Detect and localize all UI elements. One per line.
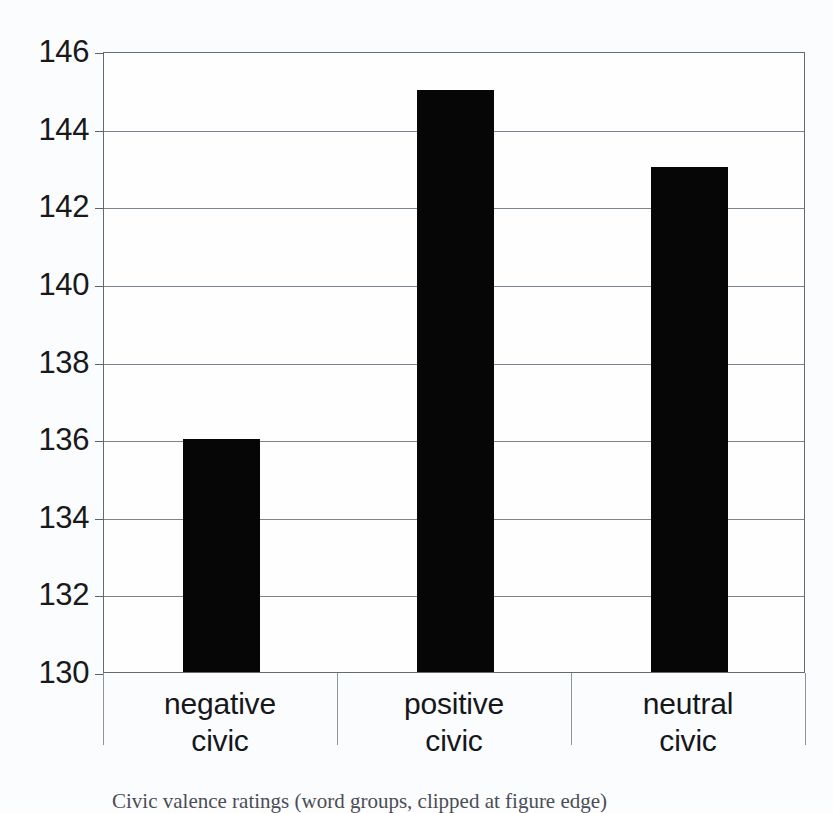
category-separator <box>103 673 104 745</box>
y-axis-tick <box>95 53 104 54</box>
bar <box>183 439 260 672</box>
category-separator <box>571 673 572 745</box>
category-separator <box>805 673 806 745</box>
y-axis-tick-label: 132 <box>0 579 89 610</box>
x-axis-category-label-line: civic <box>337 722 571 759</box>
x-axis-category-label: positivecivic <box>337 673 571 777</box>
bar <box>417 90 494 672</box>
y-axis-tick <box>95 596 104 597</box>
y-axis-tick-label: 142 <box>0 191 89 222</box>
x-axis-category-label-line: civic <box>571 722 805 759</box>
y-axis-tick <box>95 286 104 287</box>
plot-area <box>103 52 805 673</box>
y-axis-tick-label: 136 <box>0 424 89 455</box>
category-separator <box>337 673 338 745</box>
x-axis-category-label-line: negative <box>103 685 337 722</box>
y-axis-tick <box>95 208 104 209</box>
y-axis-tick-label: 138 <box>0 347 89 378</box>
y-axis-tick-label: 146 <box>0 36 89 67</box>
y-axis-tick-label: 144 <box>0 114 89 145</box>
y-axis-tick-label: 140 <box>0 269 89 300</box>
y-axis-tick-label: 130 <box>0 657 89 688</box>
x-axis-category-label-line: civic <box>103 722 337 759</box>
x-axis-category-label-line: positive <box>337 685 571 722</box>
x-axis-category-label: neutralcivic <box>571 673 805 777</box>
y-axis-tick <box>95 519 104 520</box>
y-axis-tick <box>95 364 104 365</box>
x-axis-category-strip: negativecivicpositivecivicneutralcivic <box>103 673 805 777</box>
x-axis-category-label: negativecivic <box>103 673 337 777</box>
y-axis-tick-label: 134 <box>0 502 89 533</box>
y-axis-tick <box>95 441 104 442</box>
figure-caption: Civic valence ratings (word groups, clip… <box>112 789 812 813</box>
y-axis-tick <box>95 131 104 132</box>
x-axis-category-label-line: neutral <box>571 685 805 722</box>
bar <box>651 167 728 672</box>
